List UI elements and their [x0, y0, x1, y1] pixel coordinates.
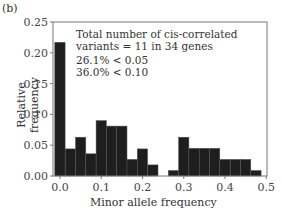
histogram-bar: [251, 171, 261, 177]
histogram-bar: [96, 121, 106, 176]
x-tick-label: 0.0: [51, 181, 69, 194]
histogram-bar: [55, 42, 65, 176]
x-tick-label: 0.1: [93, 181, 111, 194]
annotation-line-3: 26.1% < 0.05: [76, 54, 148, 66]
y-tick-label: 0.00: [24, 170, 49, 183]
y-axis-label: Relative frequency: [15, 55, 41, 155]
histogram-bar: [117, 126, 127, 176]
annotation-line-4: 36.0% < 0.10: [76, 66, 148, 78]
annotation-line-1: Total number of cis-correlated: [76, 28, 237, 40]
histogram-bar: [241, 159, 251, 176]
histogram-bar: [220, 159, 230, 176]
histogram-bar: [189, 148, 199, 176]
histogram-bar: [199, 148, 209, 176]
histogram-bar: [137, 149, 147, 176]
histogram-bar: [148, 165, 158, 176]
annotation-line-2: variants = 11 in 34 genes: [76, 40, 213, 52]
histogram-bar: [230, 159, 240, 176]
x-tick-label: 0.2: [134, 181, 152, 194]
histogram-bar: [179, 137, 189, 176]
x-axis-label: Minor allele frequency: [90, 196, 217, 209]
x-tick-label: 0.3: [175, 181, 193, 194]
y-tick-label: 0.25: [24, 16, 49, 29]
histogram-bar: [106, 126, 116, 176]
histogram-bar: [127, 159, 137, 176]
histogram-bar: [65, 149, 75, 176]
x-tick-label: 0.4: [216, 181, 234, 194]
histogram-bar: [210, 148, 220, 176]
histogram-bar: [86, 154, 96, 176]
x-tick-label: 0.5: [258, 181, 276, 194]
x-axis-ticks: 0.00.10.20.30.40.5: [51, 176, 275, 194]
histogram-bar: [168, 171, 178, 177]
histogram-bar: [76, 137, 86, 176]
